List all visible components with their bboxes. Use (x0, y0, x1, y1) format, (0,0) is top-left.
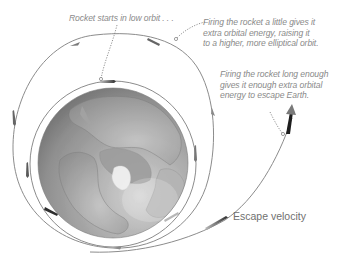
rocket-icon (194, 145, 197, 162)
annotation-escape: Firing the rocket long enough gives it e… (220, 69, 328, 101)
annotation-line: Firing the rocket long enough (220, 69, 328, 80)
annotation-line: Firing the rocket a little gives it (203, 17, 318, 28)
escape-arrow-icon (286, 112, 293, 134)
escape-arrow-icon (286, 104, 296, 115)
rocket-icon (205, 216, 228, 230)
marker-dot (281, 132, 284, 135)
rocket-icon (100, 80, 116, 83)
annotation-line: gives it enough extra orbital (220, 80, 328, 91)
earth-globe (38, 88, 188, 238)
marker-dot (99, 77, 102, 80)
annotation-line: Rocket starts in low orbit . . . (69, 13, 174, 24)
escape-velocity-label: Escape velocity (233, 210, 306, 222)
annotation-low-orbit: Rocket starts in low orbit . . . (69, 13, 174, 24)
rocket-icon (26, 162, 29, 178)
annotation-elliptical-orbit: Firing the rocket a little gives it extr… (203, 17, 318, 49)
arrow-icon (70, 42, 80, 46)
annotation-line: extra orbital energy, raising it (203, 28, 318, 39)
annotation-line: energy to escape Earth. (220, 90, 328, 101)
marker-dot (174, 37, 177, 40)
rocket-icon (13, 110, 17, 126)
annotation-line: to a higher, more elliptical orbit. (203, 38, 318, 49)
